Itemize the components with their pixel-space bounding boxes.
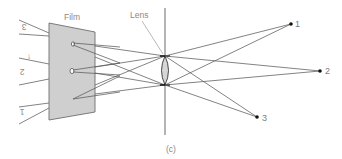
lens-to-object-rays — [165, 24, 320, 117]
ray-a6 — [95, 85, 165, 94]
object-point-2 — [318, 69, 322, 73]
object-point-3-label: 3 — [262, 113, 267, 123]
inverted-label-tick: ↑ — [27, 52, 31, 62]
ray-o3a — [165, 56, 257, 117]
object-point-1 — [289, 22, 293, 26]
inverted-label-2: 2 — [19, 67, 24, 77]
object-point-2-label: 2 — [325, 66, 330, 76]
inverted-label-1: 1 — [19, 107, 24, 117]
object-points: 1 2 3 — [255, 19, 330, 123]
ray-o3b — [165, 85, 257, 117]
ray-left-2 — [19, 79, 49, 85]
object-point-3 — [255, 115, 259, 119]
ray-left-mid-a — [19, 58, 49, 64]
ray-o2b — [165, 71, 320, 85]
lens-leader-line — [142, 21, 163, 54]
ray-left-1a — [19, 103, 49, 107]
lens-label: Lens — [130, 10, 148, 20]
ray-o1a — [165, 24, 291, 56]
ray-o2a — [165, 56, 320, 71]
inverted-label-3: 3 — [21, 22, 26, 32]
lens-shape — [162, 56, 169, 85]
lens-film-diagram: 3 ↑ 2 1 Film — [0, 0, 342, 159]
object-point-1-label: 1 — [295, 19, 300, 29]
film-spot-middle — [70, 68, 74, 73]
diagram-canvas: 3 ↑ 2 1 Film — [0, 0, 342, 159]
inverted-image-labels: 3 ↑ 2 1 — [19, 22, 31, 117]
film-label: Film — [64, 12, 80, 22]
figure-caption: (c) — [166, 144, 176, 154]
ray-left-3b — [19, 34, 49, 36]
ray-a1 — [95, 46, 165, 56]
ray-o1b — [165, 24, 291, 85]
